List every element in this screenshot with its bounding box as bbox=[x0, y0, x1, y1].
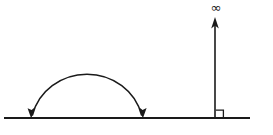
diagram-canvas: ∞ bbox=[0, 0, 273, 135]
infinity-label: ∞ bbox=[203, 0, 229, 15]
semicircular-arc bbox=[33, 74, 142, 115]
diagram-svg bbox=[0, 0, 273, 135]
right-angle-marker bbox=[216, 110, 224, 117]
arc-left-arrowhead bbox=[28, 107, 36, 119]
